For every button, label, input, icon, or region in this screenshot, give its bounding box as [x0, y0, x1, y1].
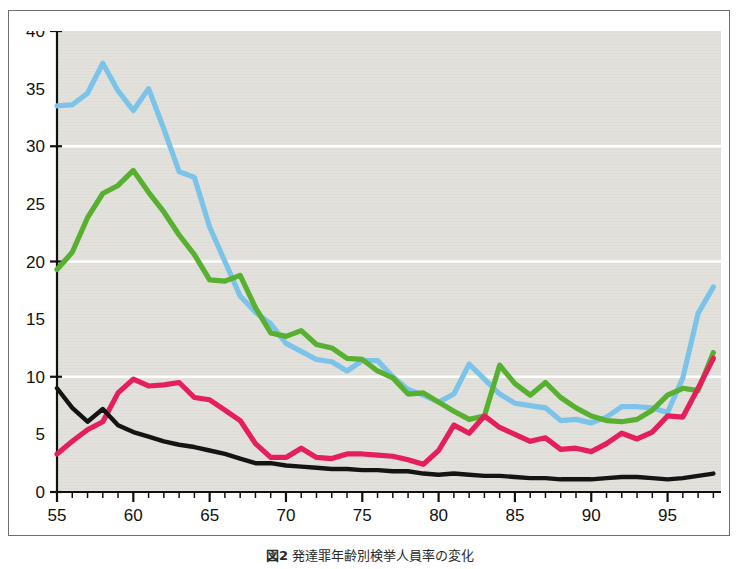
- x-tick-label: 80: [429, 506, 448, 525]
- y-tick-label: 15: [26, 310, 45, 329]
- top-mask: [0, 0, 740, 31]
- plot-wrapper: 0510152025303540556065707580859095成人: [0, 0, 740, 569]
- x-tick-label: 90: [582, 506, 601, 525]
- y-tick-label: 0: [36, 483, 45, 502]
- y-tick-label: 35: [26, 80, 45, 99]
- y-tick-label: 5: [36, 425, 45, 444]
- figure-container: 0510152025303540556065707580859095成人 図2 …: [0, 0, 740, 569]
- x-tick-label: 65: [200, 506, 219, 525]
- x-tick-label: 55: [48, 506, 67, 525]
- caption-text: 発達罪年齢別検挙人員率の変化: [292, 548, 474, 563]
- line-chart: 0510152025303540556065707580859095成人: [0, 0, 740, 569]
- x-tick-label: 60: [124, 506, 143, 525]
- x-tick-label: 75: [353, 506, 372, 525]
- x-axis-ticks: 556065707580859095: [48, 492, 714, 525]
- x-tick-label: 85: [505, 506, 524, 525]
- y-tick-label: 10: [26, 368, 45, 387]
- caption-label: 図2: [266, 548, 288, 563]
- right-mask: [721, 0, 740, 492]
- figure-caption: 図2 発達罪年齢別検挙人員率の変化: [0, 545, 740, 569]
- x-tick-label: 70: [277, 506, 296, 525]
- y-tick-label: 20: [26, 253, 45, 272]
- y-tick-label: 25: [26, 195, 45, 214]
- y-tick-label: 30: [26, 137, 45, 156]
- x-tick-label: 95: [658, 506, 677, 525]
